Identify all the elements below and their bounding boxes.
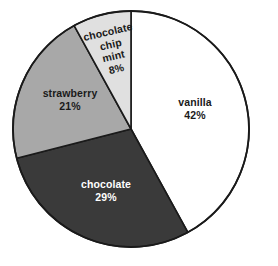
pie-chart: vanilla 42% chocolate 29% strawberry 21%… xyxy=(0,0,278,266)
pie-chart-canvas xyxy=(0,0,278,266)
pie-slices-group xyxy=(13,11,249,247)
